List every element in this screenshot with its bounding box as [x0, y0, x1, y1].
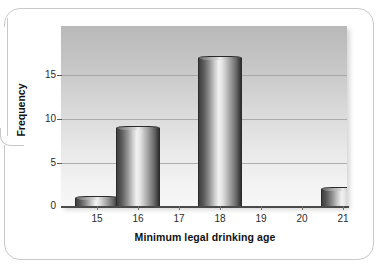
x-tick-label-18: 18 — [205, 213, 235, 224]
bar-body — [116, 128, 160, 207]
bar-cap — [116, 126, 160, 130]
x-axis-title: Minimum legal drinking age — [61, 231, 349, 243]
bar-cap — [198, 56, 242, 60]
bar-cap — [75, 196, 119, 200]
x-tick-label-19: 19 — [246, 213, 276, 224]
x-tick-label-17: 17 — [164, 213, 194, 224]
x-tick-label-16: 16 — [123, 213, 153, 224]
x-tick-20 — [302, 206, 303, 210]
x-axis-line — [61, 206, 349, 208]
x-tick-label-20: 20 — [287, 213, 317, 224]
x-tick-21 — [343, 206, 344, 210]
y-tick-mark-15 — [57, 75, 62, 76]
y-tick-label-5: 5 — [50, 158, 56, 168]
x-tick-19 — [261, 206, 262, 210]
x-tick-17 — [179, 206, 180, 210]
y-tick-label-15: 15 — [45, 70, 56, 80]
x-tick-label-21: 21 — [328, 213, 358, 224]
y-tick-label-10: 10 — [45, 114, 56, 124]
bar-16 — [116, 128, 160, 207]
card-notch-divider — [7, 18, 8, 136]
x-axis-labels: 15 16 17 18 19 20 21 — [0, 213, 384, 227]
bar-body — [321, 189, 347, 207]
y-axis-title: Frequency — [15, 65, 27, 155]
y-tick-mark-10 — [57, 119, 62, 120]
x-tick-label-15: 15 — [82, 213, 112, 224]
y-tick-mark-5 — [57, 163, 62, 164]
x-tick-18 — [220, 206, 221, 210]
y-tick-label-0: 0 — [50, 201, 56, 211]
y-axis-labels: 15 10 5 0 — [30, 0, 56, 271]
x-tick-16 — [138, 206, 139, 210]
bar-body — [198, 58, 242, 207]
bar-21 — [321, 189, 347, 207]
x-tick-15 — [97, 206, 98, 210]
plot-area — [61, 26, 347, 207]
bar-18 — [198, 58, 242, 207]
bar-cap — [321, 187, 347, 191]
